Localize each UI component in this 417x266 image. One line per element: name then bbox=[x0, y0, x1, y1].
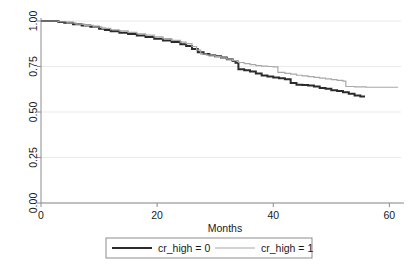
series-line-1 bbox=[41, 21, 398, 87]
x-axis bbox=[41, 203, 404, 207]
x-axis-title: Months bbox=[208, 222, 242, 234]
y-tick-label: 0.50 bbox=[27, 102, 39, 123]
y-tick-label: 0.25 bbox=[27, 147, 39, 168]
y-tick-label: 0.75 bbox=[27, 56, 39, 77]
x-tick-labels: 0204060 bbox=[38, 209, 395, 221]
survival-chart: 0.000.250.500.751.00 0204060 Months cr_h… bbox=[0, 0, 417, 266]
legend[interactable]: cr_high = 0cr_high = 1 bbox=[106, 238, 313, 258]
x-tick-label: 20 bbox=[151, 209, 163, 221]
y-tick-labels: 0.000.250.500.751.00 bbox=[27, 11, 39, 214]
y-tick-label: 1.00 bbox=[27, 11, 39, 32]
legend-label-1[interactable]: cr_high = 1 bbox=[261, 242, 313, 254]
chart-root: 0.000.250.500.751.00 0204060 Months cr_h… bbox=[0, 0, 417, 266]
x-tick-label: 60 bbox=[384, 209, 396, 221]
series-lines bbox=[41, 21, 398, 97]
x-tick-label: 40 bbox=[267, 209, 279, 221]
series-line-0 bbox=[41, 21, 365, 97]
y-tick-label: 0.00 bbox=[27, 193, 39, 214]
x-tick-label: 0 bbox=[38, 209, 44, 221]
grid-lines bbox=[41, 21, 401, 203]
legend-label-0[interactable]: cr_high = 0 bbox=[158, 242, 210, 254]
